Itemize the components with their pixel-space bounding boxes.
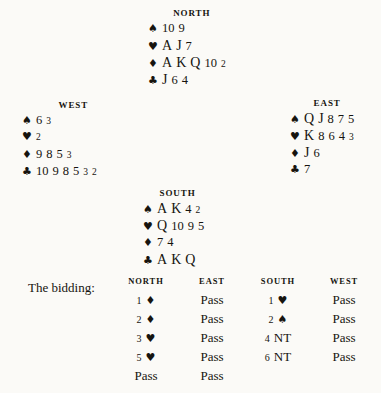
card: Q — [304, 111, 318, 126]
card: 3 — [349, 130, 358, 145]
hand-south: SOUTH ♠AK42♥Q1095♦74♣AKQ — [143, 188, 208, 269]
hand-label-west: WEST — [46, 100, 101, 110]
card: 10 — [204, 56, 221, 71]
card: 6 — [36, 113, 46, 128]
hand-suits-east: ♠QJ875♥K8643♦J6♣7 — [290, 111, 358, 179]
spade-icon: ♠ — [22, 115, 36, 126]
cards-club: J64 — [162, 72, 192, 88]
card: K — [171, 252, 185, 267]
card: 7 — [157, 235, 167, 250]
card: 3 — [83, 165, 92, 180]
bid-text: Pass — [332, 349, 355, 365]
card: K — [171, 201, 185, 216]
bid-level: 6 — [265, 352, 274, 363]
bid-suit-icon: ♥ — [146, 332, 156, 345]
bid-call: 5♥ — [113, 347, 179, 366]
bid-text: Pass — [332, 311, 355, 327]
suit-row-spade: ♠63 — [22, 113, 101, 130]
bid-pass: Pass — [179, 347, 245, 366]
cards-heart: AJ7 — [162, 38, 196, 54]
bid-level: 3 — [137, 333, 146, 344]
heart-icon: ♥ — [143, 221, 157, 232]
cards-spade: 109 — [162, 21, 189, 36]
hand-east: EAST ♠QJ875♥K8643♦J6♣7 — [290, 98, 358, 179]
card: J — [304, 145, 313, 160]
card: 4 — [185, 202, 195, 217]
bid-text: 4NT — [265, 328, 291, 346]
cards-club: 7 — [304, 162, 314, 177]
suit-row-heart: ♥K8643 — [290, 128, 358, 145]
suit-row-club: ♣1098532 — [22, 164, 101, 181]
card: 6 — [171, 73, 181, 88]
bid-level: 1 — [137, 295, 146, 306]
bid-level: 4 — [265, 333, 274, 344]
bid-level: 2 — [137, 314, 146, 325]
card: 2 — [36, 130, 45, 145]
card: 8 — [318, 129, 328, 144]
bid-text: Pass — [200, 368, 223, 384]
diamond-icon: ♦ — [290, 148, 304, 159]
bid-pass: Pass — [311, 309, 377, 328]
cards-heart: Q1095 — [157, 218, 208, 234]
cards-heart: K8643 — [304, 128, 358, 145]
card: 5 — [348, 112, 358, 127]
diamond-icon: ♦ — [148, 58, 162, 69]
spade-icon: ♠ — [290, 114, 304, 125]
suit-row-diamond: ♦J6 — [290, 145, 358, 162]
bid-text: Pass — [200, 311, 223, 327]
card: 5 — [198, 219, 208, 234]
card: 10 — [162, 21, 179, 36]
bid-text: Pass — [134, 368, 157, 384]
bidding-column-header-west: WEST — [311, 276, 377, 290]
hand-suits-south: ♠AK42♥Q1095♦74♣AKQ — [143, 201, 208, 269]
card: 2 — [196, 203, 205, 218]
bid-level: 1 — [269, 295, 278, 306]
card: 8 — [328, 112, 338, 127]
hand-north: NORTH ♠109♥AJ7♦AKQ102♣J64 — [148, 8, 230, 89]
club-icon: ♣ — [148, 75, 162, 86]
cards-spade: AK42 — [157, 201, 204, 218]
suit-row-spade: ♠AK42 — [143, 201, 208, 218]
bid-text: 3♥ — [137, 328, 156, 346]
card: Q — [190, 55, 204, 70]
bid-pass: Pass — [179, 309, 245, 328]
cards-diamond: 9853 — [36, 147, 76, 163]
card: 8 — [63, 164, 73, 179]
bid-call: 1♦ — [113, 290, 179, 309]
bid-level: 2 — [269, 314, 278, 325]
suit-row-club: ♣7 — [290, 162, 358, 179]
bid-notrump: NT — [274, 349, 291, 364]
cards-spade: QJ875 — [304, 111, 358, 127]
suit-row-diamond: ♦AKQ102 — [148, 55, 230, 72]
bid-call: 6NT — [245, 347, 311, 366]
bidding-header-row: NORTH EAST SOUTH WEST — [113, 276, 377, 290]
bid-text: Pass — [332, 292, 355, 308]
heart-icon: ♥ — [22, 131, 36, 142]
bidding-row: 1♦Pass1♥Pass — [113, 290, 377, 309]
card: J — [318, 111, 327, 126]
bid-suit-icon: ♦ — [146, 313, 156, 326]
hand-suits-west: ♠63♥2♦9853♣1098532 — [22, 113, 101, 181]
hand-west: WEST ♠63♥2♦9853♣1098532 — [22, 100, 101, 181]
bid-text: 1♦ — [137, 290, 156, 308]
hand-suits-north: ♠109♥AJ7♦AKQ102♣J64 — [148, 21, 230, 89]
bid-empty — [311, 366, 377, 385]
bid-pass: Pass — [311, 290, 377, 309]
card: 8 — [46, 147, 56, 162]
card: 4 — [167, 235, 177, 250]
club-icon: ♣ — [22, 166, 36, 177]
card: 10 — [36, 164, 53, 179]
card: 9 — [36, 147, 46, 162]
bid-text: 2♠ — [269, 309, 288, 327]
diamond-icon: ♦ — [22, 149, 36, 160]
bidding-row: 2♦Pass2♠Pass — [113, 309, 377, 328]
bid-suit-icon: ♥ — [146, 351, 156, 364]
card: 10 — [171, 219, 188, 234]
card: 7 — [186, 39, 196, 54]
card: 7 — [304, 162, 314, 177]
card: 2 — [221, 57, 230, 72]
bidding-column-header-east: EAST — [179, 276, 245, 290]
card: Q — [157, 218, 171, 233]
bid-call: 2♠ — [245, 309, 311, 328]
bid-suit-icon: ♠ — [278, 313, 288, 326]
